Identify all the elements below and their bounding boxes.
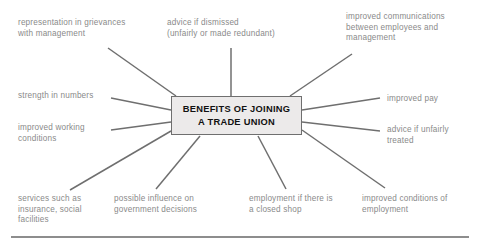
branch-label-advice-if-unfairly-treated: advice if unfairly treated	[387, 125, 449, 146]
branch-label-services-such-as-insurance: services such as insurance, social facil…	[18, 194, 82, 226]
connector-strength-in-numbers	[111, 98, 171, 110]
branch-label-improved-working-conditions: improved working conditions	[18, 123, 85, 144]
branch-label-advice-if-dismissed: advice if dismissed (unfairly or made re…	[167, 18, 275, 39]
connector-advice-if-unfairly-treated	[302, 122, 380, 131]
connector-possible-influence-on-government	[156, 136, 200, 189]
branch-label-strength-in-numbers: strength in numbers	[18, 91, 93, 102]
connector-improved-communications	[290, 54, 352, 96]
branch-label-employment-closed-shop: employment if there is a closed shop	[249, 194, 333, 215]
center-node-benefits-of-joining-a-trade-union: BENEFITS OF JOINING A TRADE UNION	[171, 96, 302, 135]
branch-label-improved-conditions-of-employment: improved conditions of employment	[362, 194, 448, 215]
branch-label-improved-pay: improved pay	[387, 94, 438, 105]
connector-services-such-as-insurance	[70, 131, 171, 190]
branch-label-representation-in-grievances: representation in grievances with manage…	[18, 18, 125, 39]
branch-label-improved-communications: improved communications between employee…	[346, 12, 445, 44]
connector-improved-conditions-of-employment	[302, 130, 385, 188]
connector-improved-pay	[302, 98, 380, 110]
connector-representation-in-grievances	[108, 48, 176, 96]
diagram-canvas: BENEFITS OF JOINING A TRADE UNION repres…	[0, 0, 480, 247]
connector-employment-closed-shop	[258, 136, 286, 189]
branch-label-possible-influence-on-government: possible influence on government decisio…	[114, 194, 197, 215]
center-node-title: BENEFITS OF JOINING A TRADE UNION	[183, 103, 291, 128]
footer-divider-rule	[11, 236, 469, 238]
connector-improved-working-conditions	[111, 122, 171, 130]
